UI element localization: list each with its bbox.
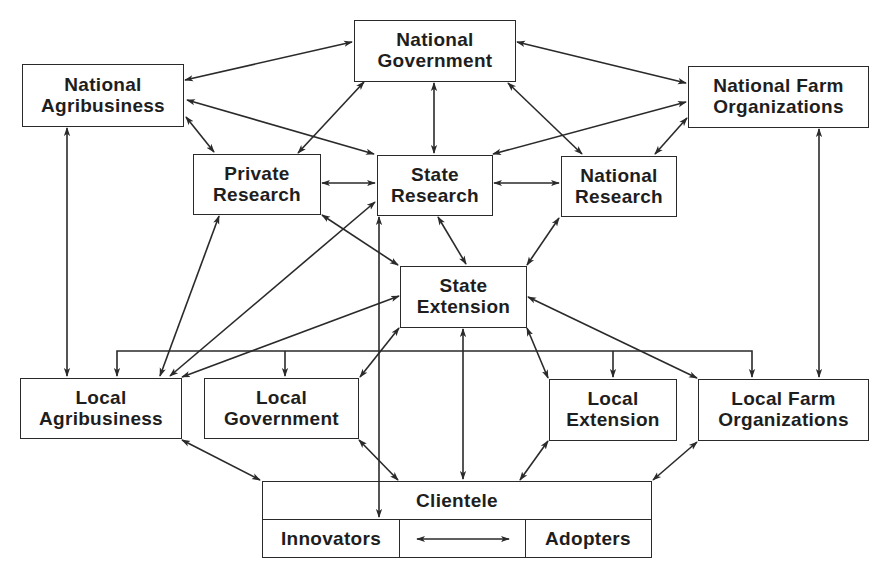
node-label-line2: Extension — [417, 297, 511, 318]
agricultural-network-diagram: National Government National Agribusines… — [0, 0, 888, 579]
node-label-line1: State — [440, 276, 488, 297]
node-national-agribusiness: National Agribusiness — [22, 64, 184, 127]
clientele-innovators: Innovators — [263, 520, 400, 557]
node-label-line2: Research — [575, 187, 663, 208]
node-label-line2: Government — [224, 409, 339, 430]
node-label-line1: National — [580, 166, 657, 187]
clientele-title: Clientele — [263, 482, 651, 520]
node-label-line2: Extension — [566, 410, 660, 431]
node-label-line1: Local Farm — [731, 389, 835, 410]
node-label-line2: Government — [378, 51, 493, 72]
node-state-extension: State Extension — [400, 266, 527, 328]
node-label-line1: National Farm — [713, 76, 844, 97]
node-national-research: National Research — [561, 156, 677, 217]
node-label-line2: Organizations — [718, 410, 849, 431]
node-local-farm-organizations: Local Farm Organizations — [698, 379, 869, 441]
node-label-line2: Agribusiness — [41, 96, 165, 117]
node-label-line2: Research — [391, 186, 479, 207]
node-local-government: Local Government — [204, 378, 359, 439]
node-label-line1: State — [411, 165, 459, 186]
node-local-agribusiness: Local Agribusiness — [20, 378, 182, 439]
node-label-line1: Local — [256, 388, 307, 409]
node-label-line1: Local — [587, 389, 638, 410]
node-local-extension: Local Extension — [549, 379, 677, 441]
node-label-line2: Organizations — [713, 97, 844, 118]
node-label-line2: Research — [213, 185, 301, 206]
node-private-research: Private Research — [193, 154, 321, 215]
node-national-farm-organizations: National Farm Organizations — [688, 66, 869, 128]
double-arrow-icon — [413, 533, 513, 545]
node-clientele: Clientele Innovators Adopters — [262, 481, 652, 558]
clientele-adopters: Adopters — [526, 520, 650, 557]
node-state-research: State Research — [377, 155, 493, 216]
node-label-line1: Local — [75, 388, 126, 409]
node-label-line1: Private — [224, 164, 289, 185]
node-label-line2: Agribusiness — [39, 409, 163, 430]
node-national-government: National Government — [354, 20, 516, 82]
node-label-line1: National — [396, 30, 473, 51]
node-label-line1: National — [64, 75, 141, 96]
clientele-middle-cell — [400, 520, 526, 557]
